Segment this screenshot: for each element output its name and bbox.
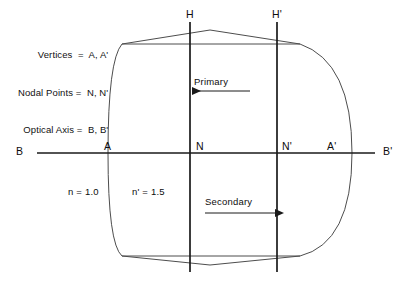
label-axis-left: B	[16, 145, 23, 157]
label-axis-right: B'	[383, 145, 392, 157]
lens-outline	[108, 30, 352, 265]
legend-line-nodal-points: Nodal Points = N, N'	[18, 87, 108, 100]
label-vertex-right: A'	[327, 140, 336, 152]
label-primary-arrow: Primary	[194, 76, 228, 87]
legend: Vertices = A, A' Nodal Points = N, N' Op…	[18, 24, 108, 162]
label-vertex-left: A	[104, 140, 111, 152]
label-principal-plane-h: H	[186, 8, 194, 20]
legend-line-vertices: Vertices = A, A'	[18, 49, 108, 62]
label-nodal-right: N'	[282, 140, 292, 152]
label-index-lens: n' = 1.5	[132, 186, 165, 197]
legend-line-optical-axis: Optical Axis = B, B'	[18, 124, 108, 137]
optical-diagram: Vertices = A, A' Nodal Points = N, N' Op…	[0, 0, 414, 286]
label-principal-plane-h-prime: H'	[272, 8, 282, 20]
label-secondary-arrow: Secondary	[205, 196, 252, 207]
label-index-object: n = 1.0	[68, 186, 99, 197]
label-nodal-left: N	[196, 140, 204, 152]
